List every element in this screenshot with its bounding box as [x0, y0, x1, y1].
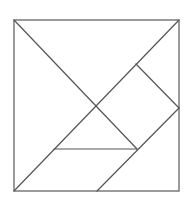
diagonal-top-left — [14, 20, 137, 149]
tangram-diagram — [0, 0, 192, 199]
tangram-canvas — [0, 0, 192, 199]
square-top-edge — [136, 64, 179, 108]
